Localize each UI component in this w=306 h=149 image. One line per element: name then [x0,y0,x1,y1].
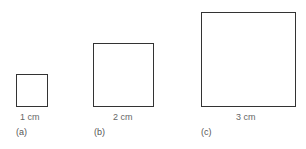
size-label-2cm: 2 cm [113,112,133,122]
square-3cm [201,12,296,107]
caption-a: (a) [16,127,27,137]
square-2cm [93,43,154,107]
size-label-1cm: 1 cm [20,112,40,122]
size-label-3cm: 3 cm [236,112,256,122]
caption-b: (b) [94,127,105,137]
caption-c: (c) [201,127,212,137]
square-1cm [16,74,48,107]
